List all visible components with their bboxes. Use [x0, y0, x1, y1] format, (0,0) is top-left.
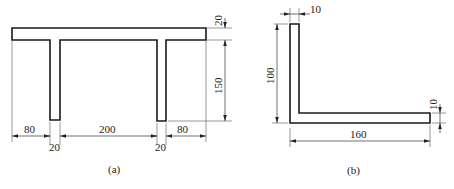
figure-a: 80 20 200 20 80 20 150 (a) — [12, 15, 232, 177]
caption-a: (a) — [108, 163, 121, 176]
figure-b: 10 100 10 160 (b) — [264, 3, 446, 177]
diagram-canvas: 80 20 200 20 80 20 150 (a) 10 100 — [0, 0, 454, 189]
l-section-outline — [290, 24, 430, 123]
dim-flange-thickness: 20 — [212, 15, 224, 27]
t-frame-outline — [12, 28, 206, 121]
dim-horizontal-thickness: 10 — [427, 99, 439, 111]
dim-between-legs: 200 — [99, 123, 116, 135]
dim-leg1-width: 20 — [49, 141, 61, 153]
dim-right-overhang: 80 — [177, 123, 189, 135]
dim-leg-height: 150 — [212, 77, 224, 94]
dim-vertical-thickness: 10 — [310, 3, 322, 15]
dim-left-overhang: 80 — [24, 123, 36, 135]
caption-b: (b) — [347, 164, 360, 177]
dim-horizontal-length: 160 — [350, 128, 367, 140]
dim-vertical-height: 100 — [264, 67, 276, 84]
dim-leg2-width: 20 — [155, 141, 167, 153]
